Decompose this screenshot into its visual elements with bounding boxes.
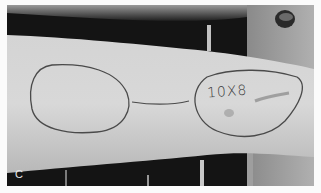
reflection bbox=[200, 160, 204, 186]
reflection bbox=[65, 170, 67, 186]
clinical-photo: 10X8 C bbox=[7, 5, 314, 186]
annotation-text: 10X8 bbox=[206, 82, 247, 101]
bruise-mark bbox=[224, 109, 234, 117]
reflection bbox=[147, 175, 149, 186]
reflection bbox=[207, 25, 211, 51]
photo-scene bbox=[7, 5, 314, 186]
panel-label: C bbox=[15, 168, 23, 180]
round-object-highlight bbox=[279, 13, 293, 21]
reflection bbox=[247, 151, 253, 186]
